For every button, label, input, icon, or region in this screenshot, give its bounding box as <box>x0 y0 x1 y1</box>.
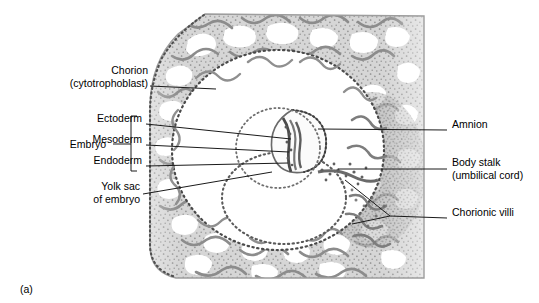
label-chorionic-villi-text: Chorionic villi <box>452 206 514 218</box>
label-ectoderm-text: Ectoderm <box>97 112 142 124</box>
label-ectoderm: Ectoderm <box>64 112 142 125</box>
label-yolk-sac: Yolk sac of embryo <box>48 180 140 205</box>
label-chorion-line2: (cytotrophoblast) <box>38 77 148 90</box>
label-mesoderm: Mesoderm <box>58 133 142 146</box>
label-endoderm: Endoderm <box>60 154 142 167</box>
label-mesoderm-text: Mesoderm <box>92 133 142 145</box>
label-amnion-text: Amnion <box>452 118 488 130</box>
histology-illustration <box>0 0 539 303</box>
label-body-stalk-line2: (umbilical cord) <box>452 169 523 182</box>
label-amnion: Amnion <box>452 118 488 131</box>
figure-letter: (a) <box>20 283 33 295</box>
label-chorion-line1: Chorion <box>111 64 148 76</box>
label-chorion: Chorion (cytotrophoblast) <box>38 64 148 89</box>
label-body-stalk-line1: Body stalk <box>452 156 500 168</box>
figure-panel: Chorion (cytotrophoblast) Embryo Ectoder… <box>0 0 539 303</box>
label-yolk-sac-line1: Yolk sac <box>101 180 140 192</box>
label-chorionic-villi: Chorionic villi <box>452 206 514 219</box>
label-endoderm-text: Endoderm <box>94 154 142 166</box>
label-body-stalk: Body stalk (umbilical cord) <box>452 156 523 181</box>
label-yolk-sac-line2: of embryo <box>48 193 140 206</box>
